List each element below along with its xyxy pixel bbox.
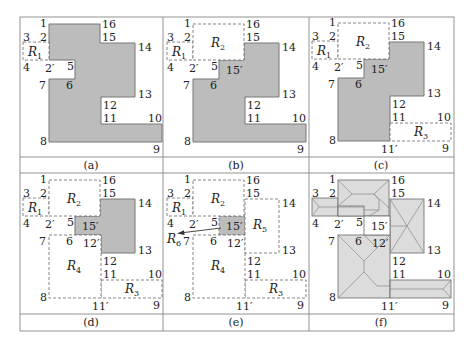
vertex-label: 1 bbox=[37, 208, 42, 217]
vertex-label: 12′ bbox=[372, 237, 389, 250]
caption-c: (c) bbox=[374, 159, 389, 172]
vertex-label: 5 bbox=[211, 60, 218, 73]
vertex-label: 8 bbox=[184, 291, 191, 304]
vertex-label: 16 bbox=[391, 17, 405, 30]
vertex-label: 15 bbox=[391, 187, 405, 200]
vertex-label: 5 bbox=[67, 60, 74, 73]
vertex-label: 2′ bbox=[334, 218, 344, 231]
vertex-label: 1 bbox=[329, 16, 336, 29]
vertex-label: 4 bbox=[167, 61, 174, 74]
arrow-to-r6 bbox=[177, 228, 221, 235]
roof-connector-left bbox=[338, 206, 364, 216]
vertex-label: 4 bbox=[23, 217, 30, 230]
vertex-label: 16 bbox=[102, 18, 116, 31]
vertex-label: 2 bbox=[184, 31, 191, 44]
vertex-label: R bbox=[27, 45, 37, 59]
vertex-label: 13 bbox=[427, 244, 441, 257]
vertex-label: 1 bbox=[40, 173, 47, 186]
vertex-label: 2 bbox=[184, 187, 191, 200]
vertex-label: R bbox=[268, 282, 278, 296]
vertex-label: 2′ bbox=[189, 62, 199, 75]
vertex-label: 14 bbox=[427, 40, 441, 53]
caption-f: (f) bbox=[375, 316, 388, 329]
vertex-label: 4 bbox=[76, 266, 81, 275]
vertex-label: R bbox=[210, 259, 220, 273]
vertex-label: 2 bbox=[329, 30, 336, 43]
vertex-label: 15 bbox=[391, 30, 405, 43]
vertex-label: 3 bbox=[23, 31, 30, 44]
vertex-label: 6 bbox=[355, 235, 362, 248]
vertex-label: 1 bbox=[181, 208, 186, 217]
vertex-label: 2 bbox=[220, 199, 225, 208]
vertex-label: 14 bbox=[138, 197, 152, 210]
vertex-label: 7 bbox=[183, 79, 190, 92]
vertex-label: 15′ bbox=[371, 63, 388, 76]
vertex-label: 1 bbox=[37, 52, 42, 61]
caption-b: (b) bbox=[228, 159, 244, 172]
vertex-label: 1 bbox=[184, 17, 191, 30]
diagram-figure: (a) (b) (c) (d) (e) (f) R1 R1 R2 R1 R2 R… bbox=[0, 0, 473, 347]
vertex-label: 3 bbox=[167, 31, 174, 44]
vertex-label: 11 bbox=[392, 111, 406, 124]
vertex-label: 5 bbox=[356, 59, 363, 72]
vertex-label: 2 bbox=[220, 43, 225, 52]
vertex-label: 15 bbox=[102, 187, 116, 200]
vertex-label: 13 bbox=[138, 88, 152, 101]
vertex-label: 15 bbox=[102, 31, 116, 44]
vertex-label: 12′ bbox=[83, 237, 100, 250]
vertex-label: 8 bbox=[329, 134, 336, 147]
vertex-label: 6 bbox=[66, 79, 73, 92]
region-label-r6: R6 bbox=[166, 232, 181, 248]
vertex-label: 4 bbox=[220, 266, 225, 275]
vertex-label: 15′ bbox=[82, 220, 99, 233]
vertex-label: 5 bbox=[211, 216, 218, 229]
vertex-label: 10 bbox=[437, 111, 451, 124]
vertex-label: R bbox=[166, 232, 176, 246]
vertex-label: 15′ bbox=[226, 220, 243, 233]
vertex-label: R bbox=[252, 218, 262, 232]
vertex-label: 16 bbox=[246, 174, 260, 187]
vertex-label: 6 bbox=[176, 239, 181, 248]
vertex-label: 11 bbox=[392, 268, 406, 281]
vertex-label: 11′ bbox=[92, 300, 109, 313]
vertex-label: 6 bbox=[66, 235, 73, 248]
vertex-label: R bbox=[171, 201, 181, 215]
vertex-label: 16 bbox=[102, 174, 116, 187]
vertex-label: 7 bbox=[183, 235, 190, 248]
vertex-label: 9 bbox=[297, 143, 304, 156]
vertex-label: 12 bbox=[247, 255, 261, 268]
vertex-label: R bbox=[355, 35, 365, 49]
vertex-label: R bbox=[210, 36, 220, 50]
vertex-label: 2′ bbox=[45, 62, 55, 75]
vertex-label: 3 bbox=[167, 187, 174, 200]
vertex-label: 6 bbox=[355, 78, 362, 91]
vertex-label: 5 bbox=[262, 225, 267, 234]
vertex-label: 16 bbox=[246, 18, 260, 31]
vertex-label: 13 bbox=[282, 244, 296, 257]
vertex-label: 11′ bbox=[236, 300, 253, 313]
vertex-label: 10 bbox=[292, 268, 306, 281]
vertex-label: 16 bbox=[391, 174, 405, 187]
vertex-label: 4 bbox=[23, 61, 30, 74]
vertex-label: 4 bbox=[167, 217, 174, 230]
vertex-label: 8 bbox=[40, 291, 47, 304]
vertex-label: 10 bbox=[148, 112, 162, 125]
vertex-label: 12 bbox=[392, 255, 406, 268]
vertex-label: 11 bbox=[247, 268, 261, 281]
vertex-label: 6 bbox=[210, 235, 217, 248]
vertex-label: 9 bbox=[153, 299, 160, 312]
vertex-label: 2 bbox=[329, 187, 336, 200]
vertex-label: 3 bbox=[312, 30, 319, 43]
vertex-label: 10 bbox=[292, 112, 306, 125]
vertex-label: 9 bbox=[442, 142, 449, 155]
vertex-label: 2 bbox=[40, 187, 47, 200]
vertex-label: 1 bbox=[181, 52, 186, 61]
vertex-label: R bbox=[210, 192, 220, 206]
vertex-label: 9 bbox=[297, 299, 304, 312]
vertex-label: 14 bbox=[282, 41, 296, 54]
vertex-label: 7 bbox=[39, 235, 46, 248]
vertex-label: 12′ bbox=[227, 237, 244, 250]
caption-a: (a) bbox=[83, 159, 98, 172]
vertex-label: R bbox=[66, 192, 76, 206]
vertex-label: 13 bbox=[138, 244, 152, 257]
